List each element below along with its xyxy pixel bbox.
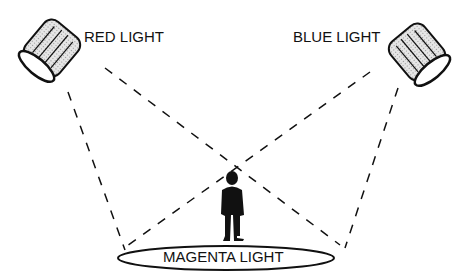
red-spotlight-icon [15,15,85,86]
person-silhouette [221,171,244,241]
diagram-canvas: RED LIGHT BLUE LIGHT MAGENTA LIGHT [0,0,474,275]
light-beams [68,68,398,250]
blue-spotlight-icon [385,19,455,90]
diagram-drawing [0,0,474,275]
blue-light-label: BLUE LIGHT [293,28,381,45]
red-light-label: RED LIGHT [84,28,164,45]
magenta-light-label: MAGENTA LIGHT [163,248,284,265]
